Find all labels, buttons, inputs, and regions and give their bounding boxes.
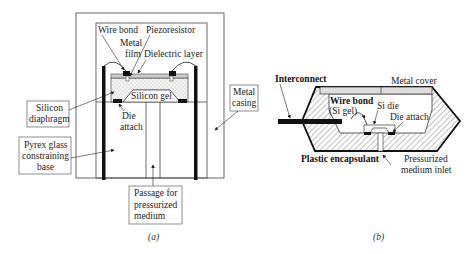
svg-text:diaphragm: diaphragm bbox=[29, 114, 70, 124]
label-pressurized-inlet: Pressurized bbox=[404, 154, 448, 164]
die-attach-left-b bbox=[364, 132, 371, 135]
pin-right bbox=[194, 66, 198, 180]
diagram-canvas: Wire bond Piezoresistor Metal film Diele… bbox=[0, 0, 474, 254]
label-die-attach: Die bbox=[122, 111, 136, 121]
pin-left bbox=[102, 66, 106, 180]
die-attach-right-b bbox=[388, 132, 395, 135]
wire-bond-left bbox=[104, 62, 126, 71]
svg-text:medium inlet: medium inlet bbox=[401, 165, 452, 175]
svg-text:Silicon: Silicon bbox=[36, 103, 63, 113]
label-plastic-encapsulant: Plastic encapsulant bbox=[301, 154, 380, 164]
svg-text:film: film bbox=[125, 49, 141, 59]
caption-b: (b) bbox=[373, 232, 384, 243]
svg-text:Pyrex glass: Pyrex glass bbox=[24, 140, 68, 150]
svg-text:medium: medium bbox=[134, 211, 166, 221]
metal-film-left bbox=[123, 71, 130, 76]
die-attach-right bbox=[178, 99, 187, 103]
label-wire-bond-b: Wire bond bbox=[330, 96, 374, 106]
wire-bond-right bbox=[172, 62, 196, 71]
label-metal-film: Metal bbox=[120, 38, 143, 48]
interconnect-lead bbox=[278, 119, 342, 124]
svg-text:base: base bbox=[37, 162, 54, 172]
svg-text:casing: casing bbox=[232, 98, 257, 108]
svg-text:Metal: Metal bbox=[233, 87, 256, 97]
svg-text:Passage for: Passage for bbox=[134, 188, 178, 198]
metal-film-right bbox=[169, 71, 176, 76]
label-metal-cover: Metal cover bbox=[391, 76, 437, 86]
label-si-die: Si die bbox=[377, 101, 399, 111]
caption-a: (a) bbox=[148, 232, 159, 243]
label-interconnect: Interconnect bbox=[275, 74, 327, 84]
svg-text:pressurized: pressurized bbox=[134, 200, 178, 210]
metal-cover bbox=[320, 87, 432, 94]
piezoresistor bbox=[126, 76, 129, 81]
label-die-attach-b: Die attach bbox=[390, 112, 429, 122]
figure-b: Interconnect Metal cover Wire bond (Si g… bbox=[275, 74, 460, 243]
die-attach-left bbox=[113, 99, 122, 103]
svg-text:constraining: constraining bbox=[22, 151, 69, 161]
medium-inlet bbox=[378, 133, 383, 151]
figure-a: Wire bond Piezoresistor Metal film Diele… bbox=[19, 13, 258, 243]
label-wire-bond: Wire bond bbox=[98, 25, 138, 35]
dielectric-layer bbox=[111, 74, 188, 78]
label-silicon-gel: Silicon gel bbox=[131, 91, 172, 101]
svg-text:attach: attach bbox=[120, 122, 143, 132]
label-dielectric-layer: Dielectric layer bbox=[144, 49, 204, 59]
label-piezoresistor: Piezoresistor bbox=[146, 25, 196, 35]
label-si-gel: (Si gel) bbox=[329, 106, 357, 117]
